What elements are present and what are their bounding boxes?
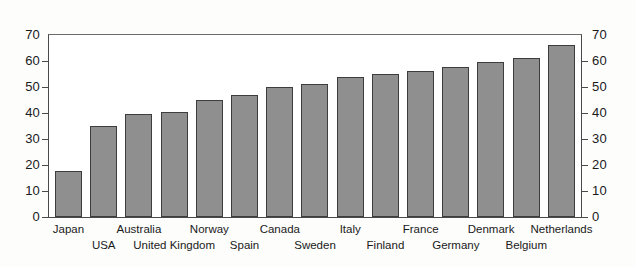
bar-italy [337,77,364,217]
y-axis-right-label: 10 [592,184,616,197]
x-axis-label-denmark: Denmark [468,223,515,235]
y-tick-left-0 [42,217,48,218]
x-axis-label-sweden: Sweden [294,239,336,251]
y-tick-left-20 [42,165,48,166]
y-tick-right-40 [582,113,588,114]
x-axis-label-canada: Canada [260,223,300,235]
x-axis-label-australia: Australia [117,223,162,235]
y-axis-right-label: 30 [592,132,616,145]
y-tick-right-60 [582,61,588,62]
bar-belgium [513,58,540,217]
y-tick-left-40 [42,113,48,114]
x-axis-label-germany: Germany [432,239,479,251]
y-tick-right-0 [582,217,588,218]
y-axis-left-label: 10 [16,184,40,197]
bar-norway [196,100,223,217]
bar-japan [55,171,82,217]
x-axis-label-norway: Norway [190,223,229,235]
y-tick-right-50 [582,87,588,88]
bar-spain [231,95,258,217]
y-axis-right-label: 60 [592,54,616,67]
y-axis-left-label: 30 [16,132,40,145]
y-axis-right-label: 40 [592,106,616,119]
y-tick-right-10 [582,191,588,192]
y-tick-right-20 [582,165,588,166]
bar-chart: JapanUSAAustraliaUnited KingdomNorwaySpa… [0,0,636,267]
y-axis-right-label: 70 [592,28,616,41]
bar-denmark [477,62,504,217]
bar-sweden [301,84,328,217]
y-axis-left-label: 40 [16,106,40,119]
x-axis-label-belgium: Belgium [506,239,548,251]
bars-layer [49,35,581,217]
y-tick-left-60 [42,61,48,62]
y-axis-left-label: 20 [16,158,40,171]
bar-finland [372,74,399,217]
x-axis-label-netherlands: Netherlands [530,223,592,235]
x-axis-label-finland: Finland [367,239,405,251]
y-tick-left-10 [42,191,48,192]
bar-canada [266,87,293,217]
x-axis-label-japan: Japan [53,223,84,235]
bar-germany [442,67,469,217]
y-axis-left-label: 60 [16,54,40,67]
bar-australia [125,114,152,217]
bar-usa [90,126,117,217]
y-axis-right-label: 20 [592,158,616,171]
bar-united-kingdom [161,112,188,217]
x-axis-label-united-kingdom: United Kingdom [133,239,215,251]
y-axis-left-label: 0 [16,210,40,223]
y-axis-left-label: 70 [16,28,40,41]
y-axis-right-label: 50 [592,80,616,93]
x-axis-label-usa: USA [92,239,116,251]
y-axis-right-label: 0 [592,210,616,223]
y-axis-left-label: 50 [16,80,40,93]
y-tick-right-30 [582,139,588,140]
bar-france [407,71,434,217]
x-axis-label-italy: Italy [340,223,361,235]
y-tick-left-50 [42,87,48,88]
x-axis-label-spain: Spain [230,239,259,251]
bar-netherlands [548,45,575,217]
x-axis-label-france: France [403,223,439,235]
y-tick-left-30 [42,139,48,140]
